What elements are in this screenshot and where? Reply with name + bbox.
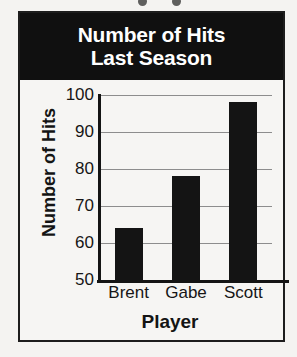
x-axis-title: Player	[70, 311, 270, 333]
y-axis-tick-label: 100	[66, 85, 94, 105]
chart-card: Number of Hits Last Season Number of Hit…	[18, 11, 285, 342]
y-axis-line	[98, 94, 101, 281]
chart-title-line-1: Number of Hits	[78, 24, 226, 46]
x-axis-tick-label: Gabe	[165, 283, 207, 303]
y-axis-tick-label: 60	[75, 233, 94, 253]
chart-body: Number of Hits 5060708090100 BrentGabeSc…	[20, 80, 283, 340]
bar-gabe	[172, 176, 200, 280]
top-edge-artifacts	[0, 0, 297, 10]
bar-scott	[229, 102, 257, 280]
plot-area	[100, 95, 272, 280]
y-axis-tick-label: 80	[75, 159, 94, 179]
y-axis-tick-label: 50	[75, 270, 94, 290]
y-axis-tick-labels: 5060708090100	[56, 95, 94, 280]
x-axis-tick-label: Scott	[224, 283, 263, 303]
chart-title-banner: Number of Hits Last Season	[20, 13, 283, 80]
plot-inner	[100, 95, 272, 280]
edge-artifact	[172, 0, 181, 6]
edge-artifact	[138, 0, 147, 6]
y-axis-tick-label: 70	[75, 196, 94, 216]
bar-brent	[115, 228, 143, 280]
x-axis-tick-label: Brent	[108, 283, 149, 303]
chart-title-line-2: Last Season	[91, 47, 213, 69]
gridline	[100, 95, 272, 96]
y-axis-tick-label: 90	[75, 122, 94, 142]
x-axis-tick-labels: BrentGabeScott	[100, 283, 272, 309]
